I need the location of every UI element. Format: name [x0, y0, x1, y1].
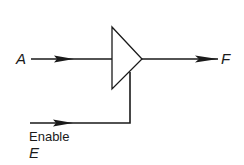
input-a-label: A	[15, 50, 26, 67]
enable-e-label: E	[29, 144, 40, 161]
buffer-gate	[112, 27, 142, 89]
output-f-label: F	[221, 50, 231, 67]
enable-label: Enable	[29, 129, 69, 144]
input-a-arrow-icon	[54, 56, 74, 63]
tristate-buffer-diagram: A F Enable E	[0, 0, 244, 165]
enable-arrow-icon	[53, 120, 73, 127]
